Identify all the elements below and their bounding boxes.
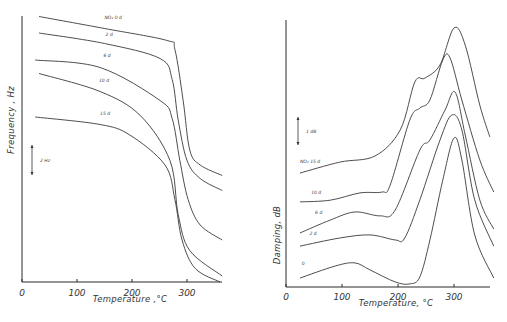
- x-tick-label: 0: [283, 292, 289, 302]
- frequency-chart: 0100200300Temperature ,°CFrequency , Hz2…: [6, 15, 222, 304]
- damping-chart: 0100200300Temperature, °CDamping, dB1 dB…: [272, 20, 494, 308]
- series-line-4: [39, 74, 222, 277]
- series-line-5: [35, 117, 220, 282]
- series-label: 10 d: [311, 190, 321, 195]
- scale-arrow-down-icon: [297, 142, 300, 145]
- series-label: 2 d: [310, 231, 317, 236]
- x-axis-label: Temperature, °C: [359, 298, 434, 308]
- x-tick-label: 300: [445, 292, 462, 302]
- x-tick-label: 100: [68, 288, 85, 298]
- series-line-1: [300, 27, 490, 173]
- series-label: NO₂ 0 d: [105, 15, 122, 20]
- x-tick-label: 100: [333, 292, 350, 302]
- series-line-5: [300, 137, 494, 284]
- series-line-2: [300, 54, 494, 202]
- x-tick-label: 300: [178, 288, 195, 298]
- series-label: 6 d: [103, 53, 110, 58]
- x-axis-label: Temperature ,°C: [93, 294, 168, 304]
- x-tick-label: 0: [19, 288, 25, 298]
- figure: 0100200300Temperature ,°CFrequency , Hz2…: [0, 0, 507, 322]
- series-line-1: [39, 17, 222, 176]
- y-axis-label: Frequency , Hz: [6, 86, 16, 154]
- series-line-3: [35, 60, 222, 240]
- series-label: 6 d: [315, 210, 322, 215]
- series-line-2: [39, 33, 222, 191]
- scale-bar-label: 2 Hz: [40, 158, 51, 163]
- scale-arrow-down-icon: [31, 172, 34, 175]
- series-label: 10 d: [99, 78, 109, 83]
- series-label: 15 d: [100, 111, 110, 116]
- y-axis-label: Damping, dB: [272, 206, 282, 265]
- series-label: 2 d: [106, 32, 113, 37]
- scale-arrow-up-icon: [297, 117, 300, 120]
- scale-bar-label: 1 dB: [306, 129, 316, 134]
- series-label: 0: [302, 261, 305, 266]
- series-label: NO₂ 15 d: [300, 159, 320, 164]
- scale-arrow-up-icon: [31, 145, 34, 148]
